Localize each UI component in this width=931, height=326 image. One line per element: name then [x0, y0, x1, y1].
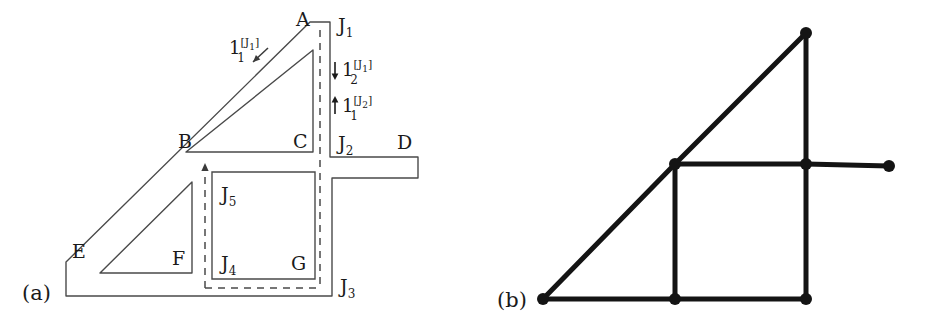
flux-sup-close-l1-J1: ]	[255, 36, 259, 49]
graph-edge	[543, 164, 675, 299]
panel-a-pointer-arrow	[253, 48, 268, 62]
flux-sup-close-l1-J2: ]	[368, 94, 372, 107]
junction-base-J1: J	[336, 14, 346, 36]
panel-a-caption: (a)	[22, 281, 51, 305]
flux-label-l1-J2: 1[J2]1	[342, 94, 372, 123]
panel-b: (b)	[466, 0, 931, 326]
graph-edge	[675, 33, 806, 164]
panel-b-caption: (b)	[497, 288, 527, 312]
graph-edge	[806, 164, 889, 166]
graph-node	[883, 160, 895, 172]
graph-node	[537, 293, 549, 305]
junction-sub-J2: 2	[346, 144, 354, 158]
junction-base-J2: J	[336, 132, 346, 154]
flux-sub-l2-J1: 2	[350, 73, 358, 87]
junction-base-J4: J	[219, 252, 229, 274]
junction-label-J1: J1	[336, 14, 353, 40]
panel-a-dashed-flux-path	[201, 30, 320, 288]
corner-label-F: F	[172, 247, 185, 269]
graph-edges-group	[543, 33, 889, 299]
panel-a: A B C D E F G J1 J2 J3 J4 J5 1[J1]1 1[J1…	[0, 0, 466, 326]
flux-sup-l1-J1: [J	[240, 36, 249, 49]
corner-label-A: A	[295, 8, 310, 30]
junction-sub-J4: 4	[229, 264, 237, 278]
figure-root: A B C D E F G J1 J2 J3 J4 J5 1[J1]1 1[J1…	[0, 0, 931, 326]
flux-arrow-up-icon	[332, 96, 339, 114]
junction-sub-J1: 1	[346, 26, 354, 40]
flux-sub-l1-J1: 1	[237, 51, 245, 65]
junction-label-J2: J2	[336, 132, 353, 158]
corner-label-C: C	[293, 130, 308, 152]
junction-sub-J5: 5	[229, 195, 237, 209]
junction-label-J3: J3	[338, 275, 355, 301]
corner-label-G: G	[291, 252, 306, 274]
flux-arrow-down-icon	[332, 62, 339, 80]
graph-node	[800, 293, 812, 305]
graph-node	[800, 27, 812, 39]
graph-node	[800, 158, 812, 170]
graph-node	[669, 158, 681, 170]
junction-base-J5: J	[219, 183, 229, 205]
flux-label-l2-J1: 1[J1]2	[342, 58, 372, 87]
flux-sup-close-l2-J1: ]	[368, 58, 372, 71]
graph-node	[669, 293, 681, 305]
corner-label-B: B	[178, 130, 192, 152]
junction-base-J3: J	[338, 275, 348, 297]
flux-sub-l1-J2: 1	[350, 109, 358, 123]
corner-label-E: E	[72, 240, 86, 262]
junction-label-J5: J5	[219, 183, 236, 209]
junction-sub-J3: 3	[348, 287, 356, 301]
corner-label-D: D	[397, 131, 412, 153]
junction-label-J4: J4	[219, 252, 237, 278]
dashed-arrow-up-head	[201, 163, 208, 171]
flux-sup-l2-J1: [J	[353, 58, 362, 71]
flux-sup-l1-J2: [J	[353, 94, 362, 107]
